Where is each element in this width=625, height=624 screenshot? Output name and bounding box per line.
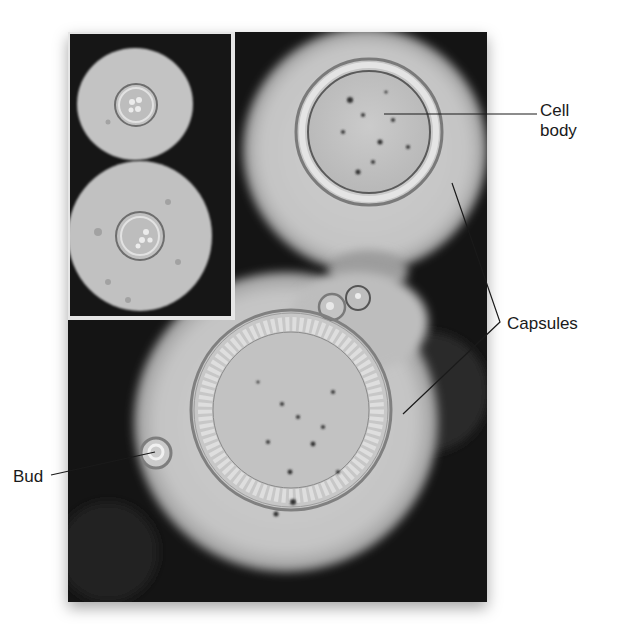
cell-body-label-line1: Cell [540,101,577,121]
micrograph-photo [68,32,487,602]
bud-label: Bud [13,467,43,487]
cell-body-label-line2: body [540,121,577,141]
micrograph-figure: Cell body Capsules Bud [0,0,625,624]
cell-body-label: Cell body [540,101,577,141]
micrograph-illustration [68,32,487,602]
inset-panel [68,32,233,318]
capsules-label: Capsules [507,314,578,334]
